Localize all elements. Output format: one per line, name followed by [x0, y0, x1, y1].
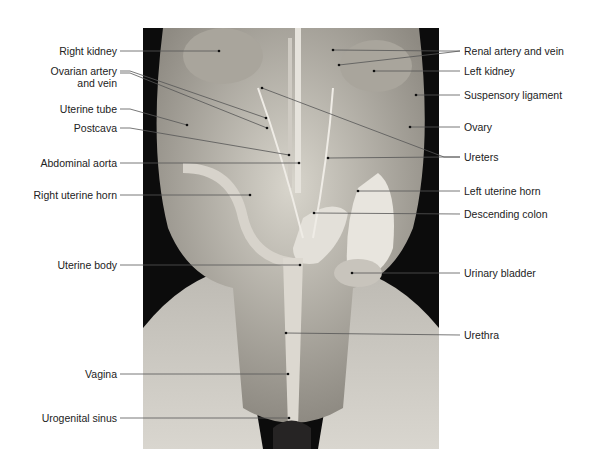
- label-uterine-tube: Uterine tube: [60, 103, 117, 115]
- anatomy-figure: Right kidney Ovarian artery and vein Ute…: [0, 0, 590, 468]
- label-ureters: Ureters: [464, 151, 498, 163]
- label-vagina: Vagina: [85, 368, 117, 380]
- label-ovary: Ovary: [464, 121, 492, 133]
- label-right-uterine-horn: Right uterine horn: [34, 189, 117, 201]
- label-urogenital-sinus: Urogenital sinus: [42, 412, 117, 424]
- label-ovarian-and-vein: and vein: [77, 77, 117, 89]
- label-suspensory-ligament: Suspensory ligament: [464, 89, 562, 101]
- label-urethra: Urethra: [464, 329, 499, 341]
- label-left-uterine-horn: Left uterine horn: [464, 185, 540, 197]
- label-renal-artery-vein: Renal artery and vein: [464, 45, 564, 57]
- label-uterine-body: Uterine body: [57, 259, 117, 271]
- label-urinary-bladder: Urinary bladder: [464, 267, 536, 279]
- label-right-kidney: Right kidney: [59, 45, 117, 57]
- label-descending-colon: Descending colon: [464, 208, 547, 220]
- label-abdominal-aorta: Abdominal aorta: [41, 157, 117, 169]
- label-postcava: Postcava: [74, 122, 117, 134]
- label-ovarian-artery: Ovarian artery: [50, 65, 117, 77]
- label-left-kidney: Left kidney: [464, 65, 515, 77]
